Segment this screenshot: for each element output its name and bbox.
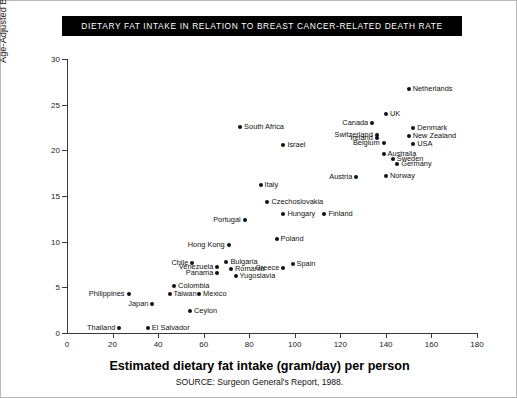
data-point [229,267,233,271]
data-point-label: Greece [255,264,279,271]
data-point-label: New Zealand [413,132,457,139]
data-point-label: Austria [329,173,352,180]
data-point [411,142,415,146]
data-point [215,271,219,275]
y-axis-tick-label: 20 [51,146,60,155]
y-axis-tick-label: 30 [51,55,60,64]
data-point-label: Hungary [287,211,315,218]
x-axis-tick [249,333,250,338]
data-point-label: Canada [342,119,368,126]
data-point [259,183,263,187]
data-point [227,243,231,247]
data-point [127,292,131,296]
data-point [146,326,150,330]
y-axis-title: Age-Adjusted Breast Cancer Death Rates p… [0,0,8,63]
data-point [150,302,154,306]
data-point [291,262,295,266]
data-point [322,212,326,216]
x-axis-tick-label: 60 [199,340,208,349]
x-axis-tick-label: 40 [154,340,163,349]
data-point [407,134,411,138]
data-point [243,218,247,222]
x-axis-tick [295,333,296,338]
x-axis-tick-label: 0 [65,340,69,349]
plot-area: 051015202530020406080100120140160180Thai… [67,59,477,333]
x-axis-tick [431,333,432,338]
data-point [375,133,379,137]
data-point [370,121,374,125]
data-point-label: Thailand [87,325,115,332]
y-axis-tick [62,287,67,288]
data-point-label: USA [417,140,432,147]
data-point [234,274,238,278]
data-point-label: Italy [265,181,279,188]
data-point-label: El Salvador [152,324,190,331]
x-axis-tick-label: 120 [334,340,347,349]
chart-title-banner: DIETARY FAT INTAKE IN RELATION TO BREAST… [62,16,462,36]
chart-title: DIETARY FAT INTAKE IN RELATION TO BREAST… [81,21,442,31]
data-point [411,126,415,130]
x-axis-tick [158,333,159,338]
y-axis-tick-label: 5 [56,283,60,292]
data-point [224,260,228,264]
x-axis-tick-label: 80 [245,340,254,349]
data-point-label: Switzerland [335,131,373,138]
data-point [382,141,386,145]
x-axis-tick-label: 160 [425,340,438,349]
data-point-label: Mexico [203,290,226,297]
y-axis-tick [62,333,67,334]
x-axis-line [67,333,478,334]
data-point-label: Taiwan [174,290,197,297]
data-point [197,292,201,296]
data-point [384,174,388,178]
y-axis-tick-label: 10 [51,237,60,246]
x-axis-tick [477,333,478,338]
data-point [281,266,285,270]
data-point-label: Hong Kong [188,242,225,249]
x-axis-title: Estimated dietary fat intake (gram/day) … [1,359,517,373]
data-point [354,175,358,179]
data-point-label: UK [390,110,400,117]
y-axis-tick-label: 25 [51,100,60,109]
data-point [407,87,411,91]
y-axis-tick [62,105,67,106]
figure-container: DIETARY FAT INTAKE IN RELATION TO BREAST… [0,0,517,398]
source-note: SOURCE: Surgeon General's Report, 1988. [1,377,517,387]
x-axis-tick-label: 180 [470,340,483,349]
data-point [215,265,219,269]
y-axis-tick [62,59,67,60]
y-axis-tick [62,242,67,243]
data-point-label: Panama [186,269,214,276]
data-point [168,292,172,296]
data-point-label: Ceylon [194,307,217,314]
data-point-label: Netherlands [413,85,453,92]
data-point [265,200,269,204]
data-point [188,309,192,313]
data-point-label: Yugoslavia [240,273,276,280]
data-point-label: Czechoslovakia [271,199,323,206]
data-point [275,237,279,241]
data-point [384,112,388,116]
data-point-label: Spain [297,260,316,267]
data-point-label: Australia [388,150,417,157]
x-axis-tick [204,333,205,338]
x-axis-tick-label: 140 [379,340,392,349]
data-point-label: Poland [281,235,304,242]
y-axis-tick-label: 0 [56,329,60,338]
data-point-label: Denmark [417,124,447,131]
data-point-label: Portugal [213,216,241,223]
x-axis-tick-label: 100 [288,340,301,349]
data-point [382,152,386,156]
y-axis-tick [62,150,67,151]
data-point-label: Israel [287,141,305,148]
data-point-label: Norway [390,172,415,179]
y-axis-tick-label: 15 [51,192,60,201]
data-point [281,212,285,216]
x-axis-tick [386,333,387,338]
data-point [281,143,285,147]
data-point [172,284,176,288]
data-point-label: Japan [128,300,148,307]
y-axis-tick [62,196,67,197]
x-axis-tick [340,333,341,338]
data-point-label: Finland [328,211,352,218]
